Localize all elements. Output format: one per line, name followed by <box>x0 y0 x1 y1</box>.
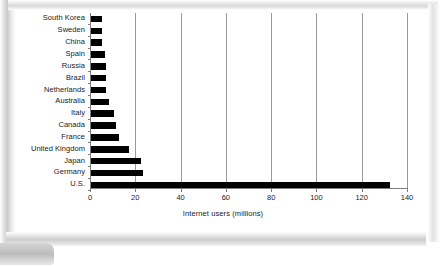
gridline-120 <box>362 13 363 188</box>
x-tick-label: 60 <box>211 193 241 202</box>
category-label: Spain <box>0 49 85 59</box>
y-tick-mark <box>88 83 90 84</box>
category-label: Japan <box>0 156 85 166</box>
category-label: Netherlands <box>0 85 85 95</box>
bar <box>91 16 102 23</box>
category-label: China <box>0 37 85 47</box>
x-axis-title: Internet users (millions) <box>0 209 446 218</box>
x-tick-mark <box>226 189 227 192</box>
x-tick-label: 20 <box>120 193 150 202</box>
category-label: Canada <box>0 120 85 130</box>
bar <box>91 63 106 70</box>
y-tick-mark <box>88 24 90 25</box>
gridline-60 <box>226 13 227 188</box>
y-tick-mark <box>88 59 90 60</box>
x-tick-label: 140 <box>392 193 422 202</box>
x-tick-label: 40 <box>166 193 196 202</box>
bar <box>91 170 143 177</box>
bar <box>91 182 390 189</box>
gridline-140 <box>407 13 408 188</box>
x-tick-label: 80 <box>256 193 286 202</box>
bar <box>91 87 106 94</box>
y-tick-mark <box>88 142 90 143</box>
bar <box>91 110 114 117</box>
category-label: Russia <box>0 61 85 71</box>
category-label: Australia <box>0 96 85 106</box>
bar <box>91 39 102 46</box>
bar <box>91 134 119 141</box>
category-label: Brazil <box>0 73 85 83</box>
x-tick-mark <box>271 189 272 192</box>
bar <box>91 28 102 35</box>
y-tick-mark <box>88 154 90 155</box>
slide-canvas: South KoreaSwedenChinaSpainRussiaBrazilN… <box>0 0 446 266</box>
category-label: South Korea <box>0 13 85 23</box>
bar-chart: South KoreaSwedenChinaSpainRussiaBrazilN… <box>0 0 446 266</box>
x-tick-mark <box>407 189 408 192</box>
bar <box>91 146 129 153</box>
category-label: United Kingdom <box>0 144 85 154</box>
x-tick-mark <box>362 189 363 192</box>
category-label: U.S. <box>0 179 85 189</box>
gridline-40 <box>181 13 182 188</box>
y-tick-mark <box>88 166 90 167</box>
x-tick-label: 100 <box>301 193 331 202</box>
y-tick-mark <box>88 48 90 49</box>
bar <box>91 99 109 106</box>
bar <box>91 122 116 129</box>
x-tick-mark <box>135 189 136 192</box>
category-label: Sweden <box>0 25 85 35</box>
x-tick-label: 0 <box>75 193 105 202</box>
y-tick-mark <box>88 178 90 179</box>
y-tick-mark <box>88 95 90 96</box>
x-tick-mark <box>316 189 317 192</box>
category-label: France <box>0 132 85 142</box>
bar <box>91 75 106 82</box>
y-tick-mark <box>88 131 90 132</box>
x-tick-mark <box>181 189 182 192</box>
y-tick-mark <box>88 107 90 108</box>
bar <box>91 51 105 58</box>
category-label: Germany <box>0 167 85 177</box>
y-tick-mark <box>88 36 90 37</box>
y-tick-mark <box>88 71 90 72</box>
gridline-80 <box>271 13 272 188</box>
bar <box>91 158 141 165</box>
x-tick-mark <box>90 189 91 192</box>
y-tick-mark <box>88 119 90 120</box>
category-label: Italy <box>0 108 85 118</box>
x-tick-label: 120 <box>347 193 377 202</box>
gridline-100 <box>316 13 317 188</box>
